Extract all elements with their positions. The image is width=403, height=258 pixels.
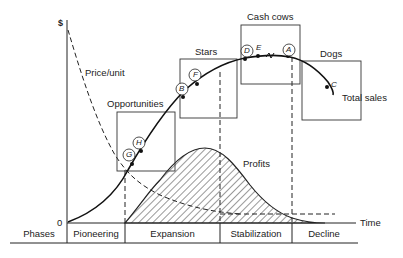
opportunities-label: Opportunities [107,99,164,109]
point-e-marker [256,54,260,58]
point-b-label: B [179,85,184,93]
stars-label: Stars [195,47,217,57]
phase-stabilization: Stabilization [220,229,292,239]
phases-header: Phases [12,229,66,239]
cash-cows-label: Cash cows [247,12,293,22]
product-life-cycle-diagram: $ 0 Time Price/unit Total sales Profits … [0,0,403,258]
point-h-label: H [136,139,142,147]
x-axis-label: Time [360,218,381,228]
point-e-label: E [256,44,261,52]
profits-area [125,148,325,223]
dogs-box [302,61,361,120]
point-f-label: F [193,71,198,79]
y-axis-label: $ [58,19,63,28]
curve-break-mark [266,53,274,58]
point-d-label: D [244,47,250,55]
origin-label: 0 [57,218,62,228]
phase-decline: Decline [292,229,356,239]
point-c-label: C [331,81,337,89]
point-a-label: A [286,46,291,54]
profits-label: Profits [243,159,270,169]
phase-pioneering: Pioneering [67,229,125,239]
point-c-marker [325,85,329,89]
dogs-label: Dogs [320,49,342,59]
phase-expansion: Expansion [125,229,220,239]
stars-box [180,59,237,118]
total-sales-label: Total sales [342,93,387,103]
point-g-label: G [126,151,132,159]
price-per-unit-label: Price/unit [85,68,125,78]
